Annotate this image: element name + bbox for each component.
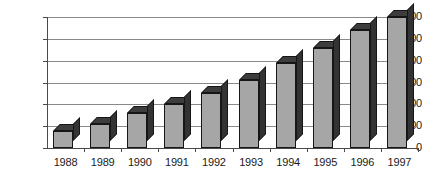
bar-front-face	[53, 131, 73, 148]
bar-side-face	[407, 3, 414, 141]
bar-front-face	[239, 80, 259, 148]
y-axis-line	[47, 17, 48, 148]
bar-column	[276, 56, 303, 148]
bar-front-face	[201, 93, 221, 148]
x-axis-tick-mark	[158, 148, 159, 152]
x-axis-tick-label: 1989	[84, 156, 121, 168]
bar-column	[201, 86, 228, 148]
bar-chart: 01,0002,0003,0004,0005,0006,000 19881989…	[0, 0, 422, 181]
bar-side-face	[184, 90, 191, 141]
x-axis-tick-label: 1988	[47, 156, 84, 168]
x-axis-tick-label: 1995	[307, 156, 344, 168]
x-axis-tick-mark	[381, 148, 382, 152]
x-axis-tick-label: 1990	[121, 156, 158, 168]
x-axis-tick-mark	[270, 148, 271, 152]
x-axis-tick-mark	[307, 148, 308, 152]
bar-side-face	[259, 66, 266, 141]
x-axis-tick-mark	[84, 148, 85, 152]
bar-side-face	[370, 16, 377, 141]
bar-side-face	[73, 117, 80, 141]
bar-column	[127, 106, 154, 148]
bar-front-face	[387, 17, 407, 148]
bar-side-face	[221, 79, 228, 141]
x-axis-tick-mark	[195, 148, 196, 152]
x-axis-tick-label: 1991	[158, 156, 195, 168]
bar-column	[239, 73, 266, 148]
bar-side-face	[333, 34, 340, 141]
bar-column	[350, 23, 377, 148]
bar-column	[164, 97, 191, 148]
bar-front-face	[350, 30, 370, 148]
bar-front-face	[164, 104, 184, 148]
x-axis-tick-label: 1994	[270, 156, 307, 168]
bar-side-face	[296, 49, 303, 141]
plot-area	[47, 17, 418, 148]
x-axis-tick-label: 1992	[195, 156, 232, 168]
bar-front-face	[276, 63, 296, 148]
x-axis-tick-label: 1997	[381, 156, 418, 168]
bar-side-face	[147, 99, 154, 141]
bar-column	[90, 117, 117, 148]
bar-front-face	[90, 124, 110, 148]
x-axis-tick-mark	[233, 148, 234, 152]
bar-column	[387, 10, 414, 148]
x-axis-tick-label: 1993	[233, 156, 270, 168]
bar-front-face	[127, 113, 147, 148]
bar-front-face	[313, 48, 333, 148]
bar-side-face	[110, 110, 117, 141]
x-axis-tick-label: 1996	[344, 156, 381, 168]
x-axis-tick-mark	[344, 148, 345, 152]
x-axis-tick-mark	[418, 148, 419, 152]
x-axis-tick-mark	[121, 148, 122, 152]
gridline	[47, 17, 418, 18]
bar-column	[53, 124, 80, 148]
bar-column	[313, 41, 340, 148]
